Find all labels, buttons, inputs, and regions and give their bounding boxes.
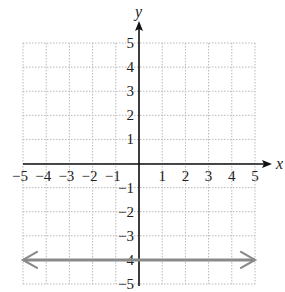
x-tick-labels: −5−4−3−2−112345: [12, 168, 259, 184]
coordinate-plane: x y −5−4−3−2−112345 54321−1−2−3−4−5: [0, 0, 285, 292]
y-tick-label: 4: [127, 59, 135, 75]
axes: x y: [23, 3, 283, 286]
x-axis-label: x: [275, 155, 283, 172]
x-tick-label: 5: [251, 168, 259, 184]
x-tick-label: −2: [82, 168, 98, 184]
y-tick-label: 2: [127, 107, 135, 123]
x-tick-label: −4: [35, 168, 51, 184]
x-tick-label: −5: [12, 168, 28, 184]
x-tick-label: 1: [158, 168, 166, 184]
x-tick-label: 3: [205, 168, 213, 184]
y-tick-label: −5: [118, 276, 134, 292]
x-tick-label: −3: [58, 168, 74, 184]
y-tick-label: 3: [127, 83, 135, 99]
y-tick-label: −2: [118, 204, 134, 220]
y-tick-label: −3: [118, 228, 134, 244]
y-tick-label: 5: [127, 35, 135, 51]
x-tick-label: 2: [182, 168, 190, 184]
y-axis-label: y: [133, 3, 143, 21]
y-tick-label: −1: [118, 180, 134, 196]
x-tick-label: 4: [228, 168, 236, 184]
y-tick-label: 1: [127, 131, 135, 147]
